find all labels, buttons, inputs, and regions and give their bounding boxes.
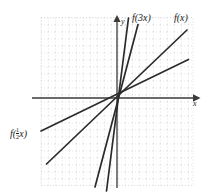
label-f-3x: f(3x) xyxy=(132,13,151,23)
label-f-half-x: f(12x) xyxy=(10,127,27,140)
x-axis-label: x xyxy=(192,99,197,108)
y-axis-label: y xyxy=(120,17,125,26)
graph-canvas: y x xyxy=(0,0,205,193)
label-f-x: f(x) xyxy=(174,13,188,23)
label-f-half-x-suffix: ) xyxy=(24,128,27,139)
coordinate-plane-line-graph: y x f(3x) f(x) f(12x) xyxy=(0,0,205,193)
